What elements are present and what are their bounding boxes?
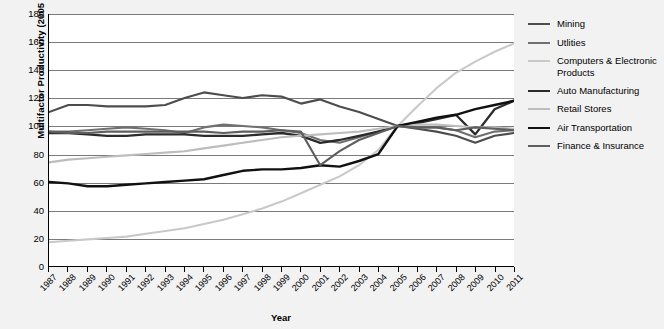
legend-item-label: Finance & Insurance [557,140,644,152]
legend-item-label: Computers & Electronic Products [557,55,657,78]
x-tick-label: 2007 [426,272,447,293]
x-tick-label: 2005 [387,272,408,293]
y-tick-label: 0 [0,261,44,272]
series-line [49,101,514,186]
x-tick-label: 2006 [407,272,428,293]
legend-item[interactable]: Computers & Electronic Products [528,55,660,78]
x-tick-label: 2002 [329,272,350,293]
x-tick-label: 1987 [38,272,59,293]
legend-item-label: Utlities [557,37,586,49]
x-tick-label: 1988 [57,272,78,293]
x-tick-label: 1995 [193,272,214,293]
x-tick-label: 2004 [368,272,389,293]
plot-area [48,14,514,267]
y-tick-label: 40 [0,205,44,216]
x-axis-tick-labels: 1987198819891990199119921993199419951996… [0,272,664,317]
x-tick-label: 1997 [232,272,253,293]
legend-item[interactable]: Finance & Insurance [528,140,660,152]
x-tick-label: 1999 [271,272,292,293]
data-series-layer [49,14,514,266]
legend-item[interactable]: Auto Manufacturing [528,85,660,97]
legend-item-label: Retail Stores [557,103,611,115]
legend-color-swatch-icon [528,85,550,97]
x-axis-title: Year [48,312,514,323]
legend-item[interactable]: Retail Stores [528,103,660,115]
x-tick-label: 1994 [174,272,195,293]
legend-item[interactable]: Utlities [528,37,660,49]
legend-item-label: Auto Manufacturing [557,85,639,97]
legend-color-swatch-icon [528,37,550,49]
x-tick-label: 1996 [213,272,234,293]
legend-color-swatch-icon [528,140,550,152]
x-tick-label: 1991 [115,272,136,293]
x-tick-label: 1990 [96,272,117,293]
x-tick-label: 1992 [135,272,156,293]
x-tick-label: 2009 [465,272,486,293]
x-tick-label: 1998 [251,272,272,293]
legend-item-label: Air Transportation [557,122,632,134]
legend-item-label: Mining [557,18,585,30]
legend: MiningUtlitiesComputers & Electronic Pro… [528,18,660,159]
x-tick-label: 2000 [290,272,311,293]
series-line [49,43,514,242]
x-tick-label: 2010 [484,272,505,293]
y-tick-label: 20 [0,233,44,244]
chart-container: Multifactor Productivity (2005 = 100) 02… [0,0,664,329]
x-tick-label: 2011 [504,272,525,293]
legend-color-swatch-icon [528,55,550,67]
y-axis-title: Multifactor Productivity (2005 = 100) [35,0,46,181]
x-tick-label: 2003 [348,272,369,293]
x-tick-label: 1993 [154,272,175,293]
legend-item[interactable]: Air Transportation [528,122,660,134]
x-tick-label: 1989 [77,272,98,293]
x-tick-label: 2008 [446,272,467,293]
legend-color-swatch-icon [528,122,550,134]
legend-item[interactable]: Mining [528,18,660,30]
x-tick-label: 2001 [310,272,331,293]
legend-color-swatch-icon [528,103,550,115]
legend-color-swatch-icon [528,18,550,30]
